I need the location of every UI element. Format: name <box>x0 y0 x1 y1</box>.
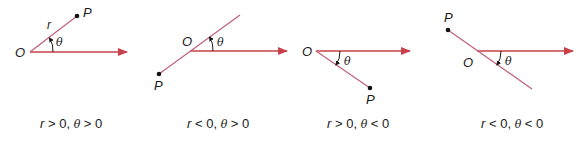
point-label: P <box>154 78 163 93</box>
angle-arc-icon <box>50 38 54 52</box>
caption: r < 0, θ < 0 <box>481 116 543 131</box>
caption: r > 0, θ < 0 <box>327 116 389 131</box>
caption: r > 0, θ > 0 <box>40 116 102 131</box>
angle-arc-icon <box>497 51 501 65</box>
radius-ray <box>316 51 370 88</box>
radius-ray <box>30 16 77 52</box>
polar-coordinates-figure: O P r θ r > 0, θ > 0 O P θ r < 0, θ > 0 … <box>0 0 586 141</box>
angle-label: θ <box>217 36 224 49</box>
point-p <box>368 86 373 91</box>
angle-label: θ <box>344 55 351 68</box>
panel-2: O P θ r < 0, θ > 0 <box>154 15 287 131</box>
angle-arc-icon <box>336 51 340 65</box>
origin-label: O <box>182 34 192 49</box>
panel-1: O P r θ r > 0, θ > 0 <box>15 5 127 131</box>
point-p <box>75 14 80 19</box>
panel-3: O P θ r > 0, θ < 0 <box>302 44 410 131</box>
origin-label: O <box>15 45 25 60</box>
origin-label: O <box>463 55 473 70</box>
caption: r < 0, θ > 0 <box>187 116 249 131</box>
angle-label: θ <box>56 36 63 49</box>
point-label: P <box>366 92 375 107</box>
point-p <box>446 28 451 33</box>
panel-4: O P θ r < 0, θ < 0 <box>444 10 573 131</box>
point-label: P <box>83 5 92 20</box>
angle-arc-icon <box>210 37 214 51</box>
radius-label: r <box>47 18 52 32</box>
angle-label: θ <box>505 55 512 68</box>
point-p <box>157 72 162 77</box>
point-label: P <box>444 10 453 25</box>
origin-label: O <box>302 44 312 59</box>
radius-line <box>448 30 532 89</box>
radius-line <box>159 15 240 74</box>
